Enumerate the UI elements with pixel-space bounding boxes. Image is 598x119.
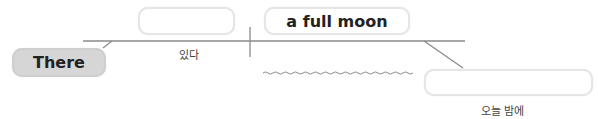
modifier-diagonal xyxy=(424,41,463,68)
subject-text: There xyxy=(33,53,85,72)
subject-connector xyxy=(103,41,112,48)
object-text: a full moon xyxy=(286,12,387,31)
verb-answer-box[interactable] xyxy=(138,7,235,35)
verb-hint: 있다 xyxy=(179,46,199,62)
subject-box: There xyxy=(12,48,106,77)
modifier-answer-box[interactable] xyxy=(424,69,593,96)
wavy-line xyxy=(263,72,413,74)
object-box: a full moon xyxy=(264,7,410,35)
modifier-hint: 오늘 밤에 xyxy=(481,102,525,118)
